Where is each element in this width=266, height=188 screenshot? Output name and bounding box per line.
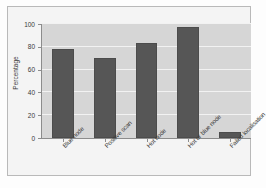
- y-tick-mark: [38, 47, 41, 48]
- y-axis-line: [41, 24, 42, 139]
- bar: [52, 49, 74, 138]
- y-tick-label: 100: [15, 21, 35, 28]
- y-tick-label: 80: [15, 43, 35, 50]
- y-tick-mark: [38, 24, 41, 25]
- y-axis-title-container: Percentage: [16, 17, 42, 142]
- y-tick-mark: [38, 115, 41, 116]
- bar: [136, 43, 158, 138]
- plot-area: [42, 24, 251, 138]
- chart-page: Percentage 020406080100 Blue nodePositiv…: [0, 0, 266, 188]
- figure-frame: Percentage 020406080100 Blue nodePositiv…: [7, 6, 251, 176]
- y-tick-mark: [38, 70, 41, 71]
- y-tick-label: 40: [15, 89, 35, 96]
- bar: [177, 27, 199, 138]
- y-tick-label: 0: [15, 135, 35, 142]
- y-tick-label: 20: [15, 112, 35, 119]
- bar: [94, 58, 116, 138]
- gridline: [42, 23, 251, 24]
- y-tick-mark: [38, 138, 41, 139]
- y-tick-label: 60: [15, 66, 35, 73]
- y-tick-mark: [38, 92, 41, 93]
